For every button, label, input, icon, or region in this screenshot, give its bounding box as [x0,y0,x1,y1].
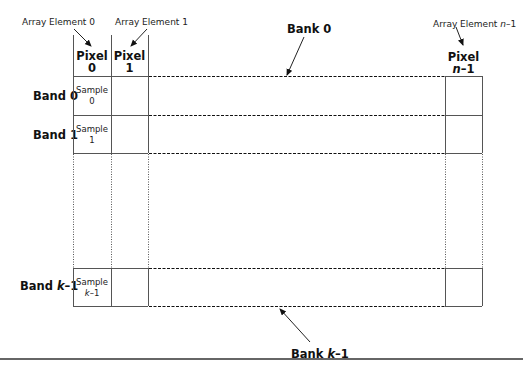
arrow-element-last [456,27,463,45]
row-borders [73,77,482,307]
gap-dotted-lines [74,154,483,268]
bank-dashed-lines [149,77,445,307]
arrow-element-1 [131,29,147,46]
arrow-element-0 [74,29,91,46]
arrow-bank-0 [287,37,304,75]
column-borders [74,35,483,306]
annotation-arrows [74,27,463,342]
arrow-bank-last [280,309,310,342]
diagram-lines [0,0,523,379]
